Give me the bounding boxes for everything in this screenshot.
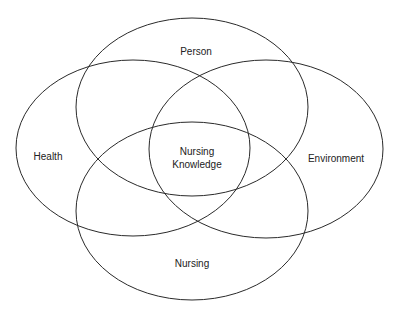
label-center-line1: Nursing <box>180 146 214 157</box>
ellipse-health <box>16 60 250 236</box>
label-person: Person <box>180 46 212 57</box>
label-environment: Environment <box>308 153 364 164</box>
label-center-line2: Knowledge <box>172 159 222 170</box>
venn-svg: Person Health Environment Nursing Nursin… <box>0 0 394 314</box>
label-health: Health <box>34 151 63 162</box>
label-nursing: Nursing <box>175 258 209 269</box>
venn-diagram: Person Health Environment Nursing Nursin… <box>0 0 394 314</box>
